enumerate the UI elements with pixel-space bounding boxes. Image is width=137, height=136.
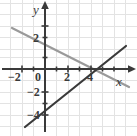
y-tick-label-2: 2 bbox=[33, 32, 39, 44]
origin-label: 0 bbox=[35, 71, 41, 83]
x-tick-label-neg2: −2 bbox=[8, 71, 21, 83]
graph-canvas bbox=[0, 0, 137, 136]
y-tick-label-neg4: −4 bbox=[27, 109, 40, 121]
x-axis-label: x bbox=[116, 75, 122, 88]
y-axis-label: y bbox=[33, 3, 39, 16]
x-tick-label-2: 2 bbox=[64, 71, 70, 83]
coordinate-plane-figure: y x 0 −2 2 4 2 −2 −4 bbox=[0, 0, 137, 136]
y-tick-label-neg2: −2 bbox=[27, 86, 40, 98]
x-tick-label-4: 4 bbox=[87, 71, 93, 83]
